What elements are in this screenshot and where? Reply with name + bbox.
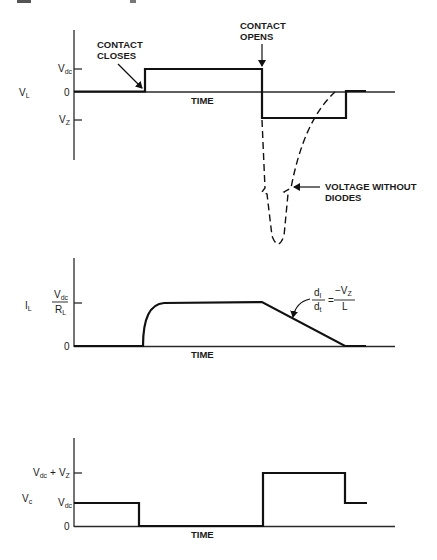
tick-label-zero: 0	[64, 87, 70, 98]
annotation-contact-opens-line1: CONTACT	[240, 20, 286, 31]
tick-label-vdc-plus-vz: Vdc+VZ	[33, 467, 71, 479]
voltage-trace-with-diodes	[74, 69, 366, 118]
current-trace	[74, 302, 366, 346]
contact-voltage-trace	[74, 473, 367, 526]
annotation-contact-closes-line2: CLOSES	[97, 50, 136, 61]
annotation-voltage-without-diodes-line1: VOLTAGE WITHOUT	[325, 181, 417, 192]
svg-text:dI: dI	[314, 287, 322, 299]
svg-text:Vdc: Vdc	[54, 289, 69, 301]
x-axis-label-time: TIME	[191, 529, 214, 540]
svg-text:−VZ: −VZ	[335, 285, 353, 297]
plot-load-current: IL Vdc RL 0 dI dt = −VZ L TIME	[25, 258, 395, 360]
tick-label-vdc-over-rl: Vdc RL	[52, 289, 69, 316]
tick-label-vdc: Vdc	[58, 497, 73, 509]
tick-label-vdc: Vdc	[58, 63, 73, 75]
voltage-trace-without-diodes	[262, 92, 335, 244]
svg-text:=: =	[328, 295, 334, 306]
annotation-di-dt-equation: dI dt = −VZ L	[312, 285, 355, 313]
svg-text:dt: dt	[314, 301, 322, 313]
relay-diode-timing-diagram: VL Vdc 0 VZ CONTACT CLOSES CONTACT OPENS…	[0, 0, 437, 560]
plot-contact-voltage: Vc Vdc+VZ Vdc 0 TIME	[22, 438, 395, 540]
y-variable-label: VL	[19, 87, 30, 99]
annotation-contact-closes-line1: CONTACT	[97, 39, 143, 50]
annotation-voltage-without-diodes-line2: DIODES	[325, 192, 361, 203]
tick-label-vz: VZ	[59, 114, 71, 126]
x-axis-label-time: TIME	[191, 95, 214, 106]
annotation-contact-opens-line2: OPENS	[240, 31, 273, 42]
tick-label-zero: 0	[64, 521, 70, 532]
arrow-icon-slope	[293, 299, 310, 317]
cropped-header-fragment	[17, 0, 136, 3]
plot-load-voltage: VL Vdc 0 VZ CONTACT CLOSES CONTACT OPENS…	[19, 20, 417, 244]
y-variable-label: Vc	[22, 493, 33, 505]
arrow-icon-contact-closes	[118, 64, 142, 88]
tick-label-zero: 0	[64, 341, 70, 352]
y-variable-label: IL	[25, 300, 32, 312]
x-axis-label-time: TIME	[191, 349, 214, 360]
svg-text:RL: RL	[55, 304, 66, 316]
svg-text:L: L	[342, 301, 348, 312]
